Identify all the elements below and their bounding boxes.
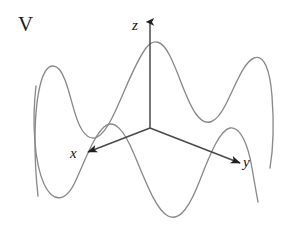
panel-label: V [18, 14, 33, 35]
curve-back-contour [35, 42, 273, 196]
axis-label-x: x [70, 146, 77, 161]
figure-panel: V z x y [0, 0, 289, 239]
axis-label-y: y [243, 155, 250, 170]
axis-y-line [150, 128, 240, 163]
surface-plot-svg [0, 0, 289, 239]
axis-label-z: z [132, 18, 138, 33]
axis-x-line [88, 128, 150, 152]
